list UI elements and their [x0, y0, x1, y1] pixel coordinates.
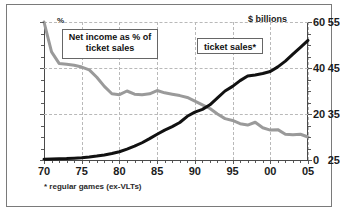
- chart-root: % $ billions 253545550204060707580859095…: [0, 0, 340, 213]
- bottom-axis-minor-tick: [240, 161, 241, 163]
- right-axis-minor-tick: [308, 137, 311, 138]
- bottom-axis-minor-tick: [210, 161, 211, 163]
- bottom-axis-minor-tick: [285, 161, 286, 163]
- right-axis-minor-tick: [308, 149, 311, 150]
- chart-footnote: * regular games (ex-VLTs): [44, 182, 142, 191]
- bottom-axis-minor-tick: [97, 161, 98, 163]
- left-axis-minor-tick: [41, 57, 44, 58]
- bottom-axis-minor-tick: [112, 161, 113, 163]
- bottom-axis-minor-tick: [150, 161, 151, 163]
- bottom-axis-minor-tick: [180, 161, 181, 163]
- bottom-axis-tick: [233, 161, 234, 164]
- bottom-axis-minor-tick: [127, 161, 128, 163]
- bottom-axis-minor-tick: [248, 161, 249, 163]
- bottom-axis-minor-tick: [300, 161, 301, 163]
- left-axis-tick: [40, 114, 44, 115]
- right-axis-minor-tick: [308, 57, 311, 58]
- bottom-axis-minor-tick: [217, 161, 218, 163]
- bottom-axis-tick: [44, 161, 45, 164]
- bottom-axis-minor-tick: [74, 161, 75, 163]
- bottom-axis-minor-tick: [187, 161, 188, 163]
- bottom-axis-minor-tick: [59, 161, 60, 163]
- bottom-axis-label-75: 75: [69, 166, 95, 177]
- right-axis-minor-tick: [308, 91, 311, 92]
- bottom-axis-label-70: 70: [31, 166, 57, 177]
- right-axis-minor-tick: [308, 34, 311, 35]
- bottom-axis-tick: [119, 161, 120, 164]
- callout-net-income: Net income as % of ticket sales: [62, 29, 158, 59]
- right-axis-label-60: 60: [313, 17, 337, 27]
- left-axis-minor-tick: [41, 45, 44, 46]
- bottom-axis-minor-tick: [104, 161, 105, 163]
- left-axis-minor-tick: [41, 126, 44, 127]
- bottom-axis-minor-tick: [172, 161, 173, 163]
- right-axis-minor-tick: [308, 45, 311, 46]
- right-axis-label-0: 0: [313, 155, 337, 165]
- right-axis-minor-tick: [308, 103, 311, 104]
- bottom-axis-tick: [157, 161, 158, 164]
- bottom-axis-label-95: 95: [220, 166, 246, 177]
- callout-ticket-sales-line1: ticket sales*: [201, 42, 259, 53]
- bottom-axis-tick: [82, 161, 83, 164]
- left-axis-minor-tick: [41, 80, 44, 81]
- bottom-axis-label-90: 90: [182, 166, 208, 177]
- bottom-axis-minor-tick: [225, 161, 226, 163]
- bottom-axis-minor-tick: [255, 161, 256, 163]
- right-axis-minor-tick: [308, 80, 311, 81]
- right-axis-tick: [308, 114, 312, 115]
- bottom-axis-minor-tick: [142, 161, 143, 163]
- bottom-axis-label-80: 80: [106, 166, 132, 177]
- left-axis-minor-tick: [41, 103, 44, 104]
- right-axis-label-40: 40: [313, 63, 337, 73]
- bottom-axis-minor-tick: [89, 161, 90, 163]
- right-axis-tick: [308, 68, 312, 69]
- left-axis-minor-tick: [41, 34, 44, 35]
- bottom-axis-minor-tick: [202, 161, 203, 163]
- bottom-axis-minor-tick: [165, 161, 166, 163]
- bottom-axis-minor-tick: [52, 161, 53, 163]
- bottom-axis-label-05: 05: [295, 166, 321, 177]
- right-axis-label-20: 20: [313, 109, 337, 119]
- bottom-axis-tick: [308, 161, 309, 164]
- left-axis-tick: [40, 22, 44, 23]
- callout-net-income-line1: Net income as % of: [66, 32, 154, 43]
- bottom-axis-tick: [270, 161, 271, 164]
- left-axis-minor-tick: [41, 137, 44, 138]
- bottom-axis-minor-tick: [278, 161, 279, 163]
- callout-ticket-sales: ticket sales*: [197, 38, 263, 54]
- left-axis-minor-tick: [41, 149, 44, 150]
- right-axis-tick: [308, 22, 312, 23]
- bottom-axis-label-00: 00: [257, 166, 283, 177]
- left-axis-tick: [40, 68, 44, 69]
- callout-net-income-line2: ticket sales: [66, 43, 154, 54]
- bottom-axis-minor-tick: [293, 161, 294, 163]
- right-axis-minor-tick: [308, 126, 311, 127]
- bottom-axis-tick: [195, 161, 196, 164]
- bottom-axis-minor-tick: [67, 161, 68, 163]
- bottom-axis-label-85: 85: [144, 166, 170, 177]
- bottom-axis-minor-tick: [263, 161, 264, 163]
- bottom-axis-minor-tick: [135, 161, 136, 163]
- left-axis-minor-tick: [41, 91, 44, 92]
- bottom-axis-line: [44, 160, 308, 161]
